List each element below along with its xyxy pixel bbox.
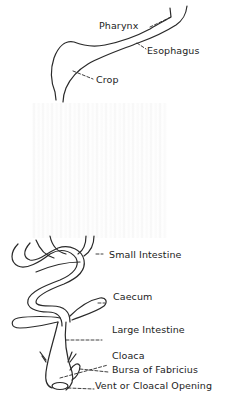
label-crop: Crop <box>96 75 119 85</box>
label-pharynx: Pharynx <box>99 21 138 31</box>
label-large-intestine: Large Intestine <box>112 325 185 335</box>
label-caecum: Caecum <box>113 292 152 302</box>
label-cloaca: Cloaca <box>112 351 145 361</box>
digestive-tract-diagram: Pharynx Esophagus Crop Small Intestine C… <box>0 0 242 403</box>
label-esophagus: Esophagus <box>147 46 200 56</box>
label-bursa-of-fabricius: Bursa of Fabricius <box>112 365 198 375</box>
label-small-intestine: Small Intestine <box>109 250 181 260</box>
label-vent: Vent or Cloacal Opening <box>95 381 212 391</box>
diagram-drawing <box>0 0 242 403</box>
